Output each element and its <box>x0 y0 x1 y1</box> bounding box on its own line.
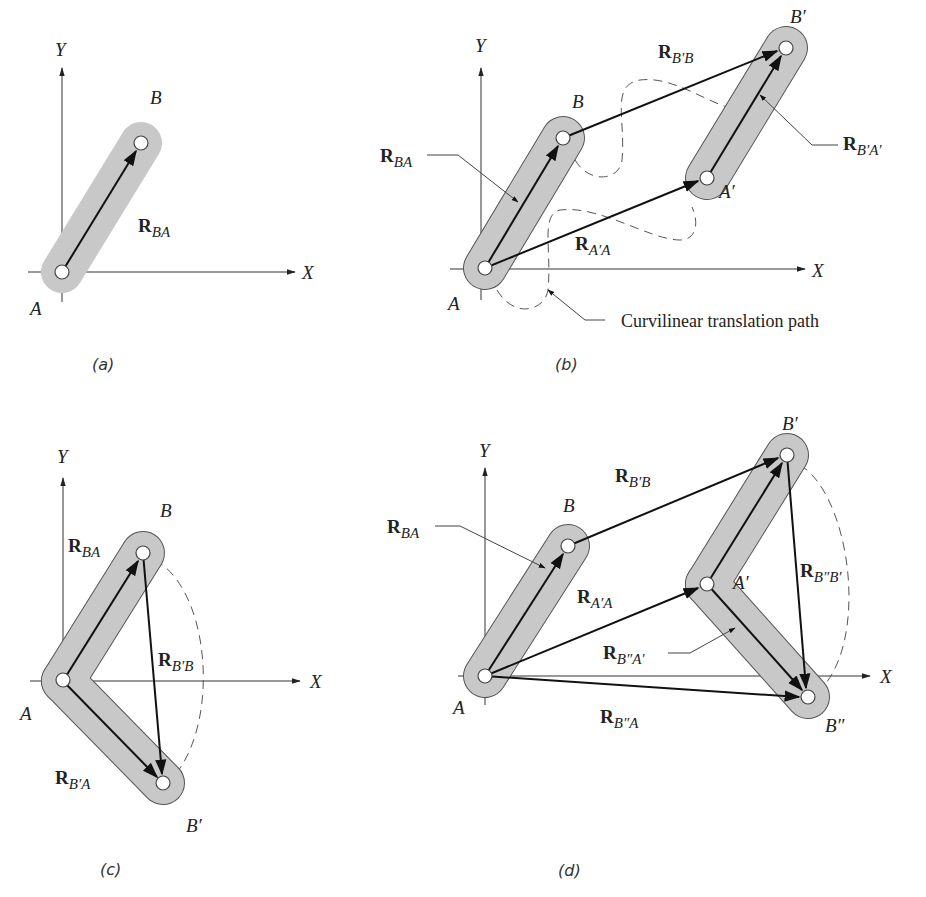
vector-label-R-BdprimeBprime: RB″B′ <box>800 560 842 585</box>
caption-d: (d) <box>558 861 581 880</box>
point-label-Bprime: B′ <box>782 413 799 434</box>
vector-R-BprimeA <box>63 681 157 777</box>
caption-a: (a) <box>92 355 114 374</box>
point-label-B: B <box>150 87 162 108</box>
pin-Aprime <box>700 171 714 185</box>
pin-Bprime <box>779 41 793 55</box>
kinematics-diagram: X Y A B RBA (a) X Y <box>0 0 926 897</box>
y-axis-label: Y <box>57 446 70 467</box>
vector-label-R-BprimeB: RB′B <box>658 41 693 66</box>
pin-A <box>55 265 69 279</box>
vector-R-BprimeAprime <box>707 463 782 584</box>
pin-A <box>56 673 70 687</box>
vector-label-R-BprimeA: RB′A <box>55 767 91 792</box>
figure-stage: X Y A B RBA (a) X Y <box>0 0 926 897</box>
pin-B <box>136 546 150 560</box>
x-axis-label: X <box>879 666 893 687</box>
vector-label-R-AprimeA: RA′A <box>577 586 613 611</box>
pin-Bprime <box>780 448 794 462</box>
point-label-A: A <box>28 298 42 319</box>
panel-c: X Y A B B′ RBA RB′B RB′A (c) <box>18 446 323 879</box>
vector-R-BA <box>63 561 138 681</box>
pin-B <box>561 539 575 553</box>
point-label-A: A <box>451 697 465 718</box>
vector-label-R-BA: RBA <box>138 215 171 240</box>
caption-c: (c) <box>100 860 121 879</box>
pin-Bdprime <box>801 690 815 704</box>
vector-label-R-BprimeB: RB′B <box>615 465 650 490</box>
point-label-Bprime: B′ <box>790 6 807 27</box>
vector-label-R-AprimeA: RA′A <box>575 233 611 258</box>
y-axis-label: Y <box>475 35 488 56</box>
vector-label-R-BprimeAprime: RB′A′ <box>843 133 882 158</box>
vector-label-R-BdprimeAprime: RB″A′ <box>603 642 645 667</box>
point-label-Bprime: B′ <box>186 815 203 836</box>
leader-R-BA <box>435 526 545 568</box>
pin-Aprime <box>700 577 714 591</box>
panel-a: X Y A B RBA (a) <box>28 39 315 374</box>
y-axis-label: Y <box>479 440 492 461</box>
point-label-Aprime: A′ <box>731 572 750 593</box>
vector-R-BdprimeA <box>485 676 799 697</box>
x-axis-label: X <box>811 260 825 281</box>
point-label-Bdprime: B″ <box>825 715 846 736</box>
pin-A <box>478 669 492 683</box>
vector-label-R-BA: RBA <box>387 516 420 541</box>
pin-Bprime <box>156 776 170 790</box>
vector-label-R-BdprimeA: RB″A <box>600 706 639 731</box>
vector-R-BA <box>62 151 136 272</box>
annotation-curvilinear-path: Curvilinear translation path <box>621 311 819 331</box>
point-label-Aprime: A′ <box>717 181 736 202</box>
point-label-B: B <box>572 91 584 112</box>
panel-d: X Y A B A′ B′ B″ RBA RB′B RA′A RB <box>387 413 893 880</box>
leader-translation-path <box>548 290 605 320</box>
vector-label-R-BprimeB: RB′B <box>158 649 193 674</box>
vector-R-BA <box>485 554 563 676</box>
point-label-B: B <box>160 500 172 521</box>
vector-label-R-BA: RBA <box>68 535 101 560</box>
pin-A <box>478 261 492 275</box>
pin-B <box>134 136 148 150</box>
pin-B <box>556 131 570 145</box>
vector-R-BdprimeAprime <box>707 584 802 690</box>
x-axis-label: X <box>301 262 315 283</box>
point-label-A: A <box>446 293 460 314</box>
x-axis-label: X <box>309 671 323 692</box>
caption-b: (b) <box>555 355 578 374</box>
vector-label-R-BA: RBA <box>380 145 413 170</box>
point-label-A: A <box>18 703 32 724</box>
panel-b: X Y A B A′ B′ RBA RB′B RB′A′ RA′A Curvil… <box>380 6 882 374</box>
y-axis-label: Y <box>55 39 68 60</box>
point-label-B: B <box>563 495 575 516</box>
